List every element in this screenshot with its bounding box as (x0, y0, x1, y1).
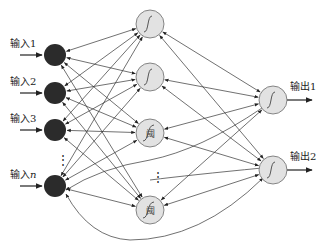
feedback-arcs (66, 108, 263, 240)
input-node-2 (44, 82, 66, 104)
hidden-output-edges (160, 32, 264, 205)
hidden-node-1 (136, 10, 164, 38)
hidden-ellipsis: ⋮ (152, 172, 164, 182)
output-label-2: 输出2 (290, 152, 316, 162)
hidden-node-2 (136, 63, 164, 91)
input-label-n-index: n (30, 169, 36, 180)
input-label-1: 输入1 (10, 39, 36, 49)
input-label-n: 输入n (10, 170, 36, 180)
input-ellipsis: ⋮ (57, 155, 69, 165)
output-layer (259, 86, 287, 184)
threshold-glyph: 阈 (146, 128, 155, 139)
hidden-layer: 阈 阈 (136, 10, 164, 224)
input-hidden-edges (61, 29, 142, 207)
input-label-2: 输入2 (10, 77, 36, 87)
input-label-n-text: 输入n (10, 169, 36, 180)
threshold-glyph: 阈 (146, 205, 155, 216)
hidden-node-3: 阈 (136, 119, 164, 147)
input-node-n (44, 175, 66, 197)
output-label-1: 输出1 (290, 82, 316, 92)
neural-network-diagram: 阈 阈 输入1 输入2 输入3 输入n ⋮ ⋮ 输出1 输出2 (0, 0, 324, 248)
output-node-1 (259, 86, 287, 114)
output-node-2 (259, 156, 287, 184)
network-graph: 阈 阈 (0, 0, 324, 248)
input-node-1 (44, 44, 66, 66)
input-node-3 (44, 119, 66, 141)
input-label-3: 输入3 (10, 114, 36, 124)
hidden-node-4: 阈 (136, 196, 164, 224)
